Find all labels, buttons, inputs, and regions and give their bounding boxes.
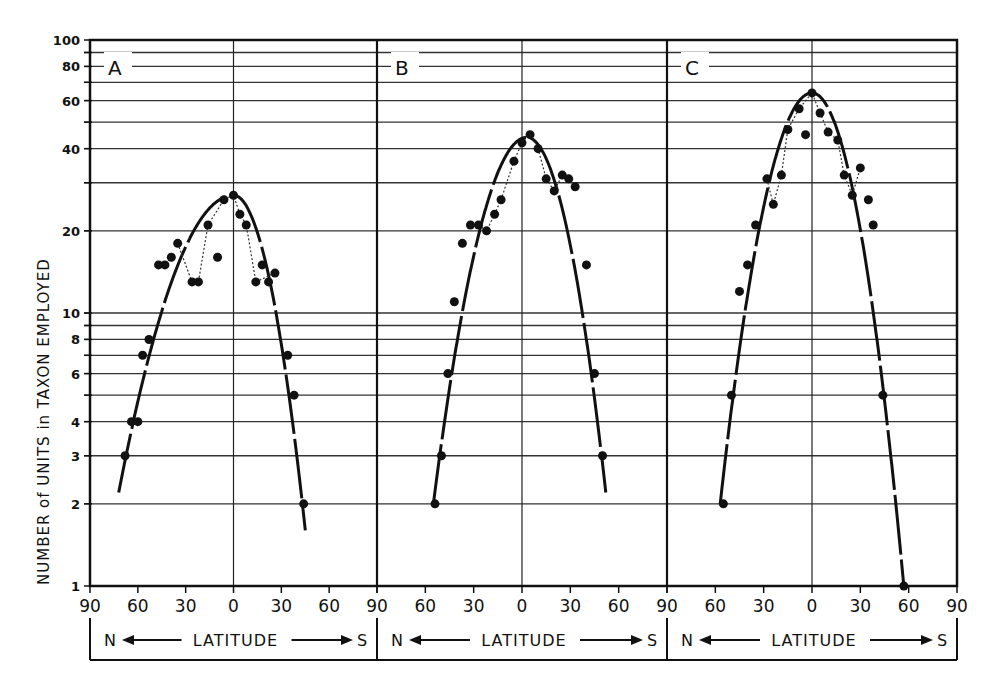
y-tick-label: 2 <box>71 497 80 512</box>
data-point <box>497 195 506 204</box>
data-point <box>203 221 212 230</box>
x-tick-label: 90 <box>946 596 968 616</box>
data-point <box>474 221 483 230</box>
x-tick-label: 0 <box>807 596 818 616</box>
data-point <box>443 369 452 378</box>
data-point <box>450 297 459 306</box>
y-tick-label: 100 <box>53 33 80 48</box>
data-point <box>719 499 728 508</box>
north-label: N <box>391 631 404 650</box>
y-tick-label: 80 <box>62 59 80 74</box>
x-tick-label: 90 <box>366 596 388 616</box>
panel-label-c: C <box>685 56 699 80</box>
data-point <box>526 130 535 139</box>
gridlines <box>84 40 957 586</box>
south-label: S <box>357 631 368 650</box>
x-axis: 9060300306090NSLATITUDE60300306090NSLATI… <box>79 586 968 660</box>
data-point <box>534 144 543 153</box>
x-tick-label: 60 <box>415 596 437 616</box>
data-point <box>727 391 736 400</box>
panel-label-a: A <box>108 56 122 80</box>
data-point <box>482 226 491 235</box>
data-point <box>769 200 778 209</box>
data-point <box>133 417 142 426</box>
data-point <box>824 128 833 137</box>
data-point <box>258 260 267 269</box>
data-point <box>550 186 559 195</box>
data-point <box>431 499 440 508</box>
x-tick-label: 90 <box>79 596 101 616</box>
latitude-diversity-chart: ABC 1234681020406080100 9060300306090NSL… <box>0 0 996 687</box>
data-point <box>518 138 527 147</box>
data-point <box>264 277 273 286</box>
data-point <box>582 260 591 269</box>
data-point <box>783 125 792 134</box>
data-point <box>509 157 518 166</box>
data-point <box>743 260 752 269</box>
data-point <box>283 351 292 360</box>
x-tick-label: 30 <box>753 596 775 616</box>
data-point <box>542 174 551 183</box>
y-axis-title: NUMBER of UNITS in TAXON EMPLOYED <box>35 258 53 585</box>
data-point <box>751 221 760 230</box>
x-tick-label: 30 <box>560 596 582 616</box>
x-tick-label: 60 <box>127 596 149 616</box>
data-point <box>167 253 176 262</box>
data-point <box>848 191 857 200</box>
arrow-left-head-icon <box>409 635 421 645</box>
latitude-label: LATITUDE <box>481 631 566 650</box>
data-point <box>899 582 908 591</box>
y-tick-label: 3 <box>71 449 80 464</box>
y-tick-label: 4 <box>71 415 80 430</box>
data-point <box>173 239 182 248</box>
fit-curve-a <box>119 195 306 530</box>
x-tick-label: 60 <box>705 596 727 616</box>
arrow-left-head-icon <box>699 635 711 645</box>
x-tick-label: 30 <box>463 596 485 616</box>
data-point <box>251 277 260 286</box>
data-point <box>833 136 842 145</box>
data-point <box>290 391 299 400</box>
north-label: N <box>104 631 117 650</box>
data-point <box>564 174 573 183</box>
data-point <box>219 195 228 204</box>
data-point <box>808 88 817 97</box>
x-tick-label: 30 <box>175 596 197 616</box>
data-point <box>598 451 607 460</box>
data-point <box>878 391 887 400</box>
y-axis: 1234681020406080100 <box>53 33 92 594</box>
data-point <box>121 451 130 460</box>
data-point <box>735 287 744 296</box>
y-tick-label: 40 <box>62 142 80 157</box>
arrow-right-head-icon <box>921 635 933 645</box>
south-label: S <box>937 631 948 650</box>
y-tick-label: 10 <box>62 306 80 321</box>
data-point <box>840 171 849 180</box>
data-point <box>795 104 804 113</box>
data-point <box>458 239 467 248</box>
data-point <box>213 253 222 262</box>
data-point <box>437 451 446 460</box>
data-point <box>864 195 873 204</box>
arrow-right-head-icon <box>341 635 353 645</box>
panel-label-b: B <box>395 56 409 80</box>
data-point <box>816 109 825 118</box>
data-point <box>144 335 153 344</box>
data-point <box>229 191 238 200</box>
data-point <box>160 260 169 269</box>
x-tick-label: 0 <box>228 596 239 616</box>
latitude-label: LATITUDE <box>193 631 278 650</box>
x-tick-label: 90 <box>656 596 678 616</box>
y-tick-label: 1 <box>71 579 80 594</box>
south-label: S <box>647 631 658 650</box>
data-point <box>869 221 878 230</box>
latitude-label: LATITUDE <box>771 631 856 650</box>
y-tick-label: 8 <box>71 332 80 347</box>
dotted-connectors <box>178 93 861 282</box>
y-tick-label: 60 <box>62 94 80 109</box>
x-tick-label: 30 <box>850 596 872 616</box>
y-tick-label: 6 <box>71 367 80 382</box>
data-point <box>777 171 786 180</box>
x-tick-label: 60 <box>898 596 920 616</box>
data-point <box>138 351 147 360</box>
